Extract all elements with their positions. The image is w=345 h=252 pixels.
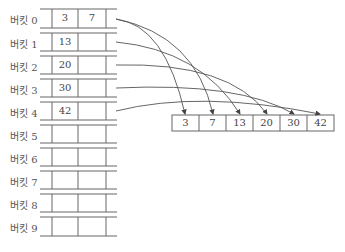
result-cell: 7: [199, 117, 226, 128]
bucket-cell: 3: [52, 12, 78, 23]
bucket-label: 버킷 7: [10, 174, 38, 189]
mapping-arrows: [116, 19, 320, 114]
bucket-label: 버킷 9: [10, 220, 38, 235]
bucket-label: 버킷 2: [10, 59, 38, 74]
result-cell: 3: [172, 117, 199, 128]
bucket-cell: 13: [52, 36, 78, 47]
bucket-label: 버킷 1: [10, 36, 38, 51]
bucket-label: 버킷 5: [10, 128, 38, 143]
bucket-label: 버킷 0: [10, 12, 38, 27]
result-cell: 13: [226, 117, 253, 128]
bucket-sort-diagram: 버킷 0 버킷 1 버킷 2 버킷 3 버킷 4 버킷 5 버킷 6 버킷 7 …: [0, 0, 345, 252]
bucket-label: 버킷 4: [10, 105, 38, 120]
result-cell: 20: [253, 117, 280, 128]
bucket-label: 버킷 6: [10, 151, 38, 166]
result-cell: 30: [280, 117, 307, 128]
bucket-label: 버킷 8: [10, 197, 38, 212]
bucket-label: 버킷 3: [10, 82, 38, 97]
bucket-cell: 30: [52, 82, 78, 93]
bucket-cell: 42: [52, 105, 78, 116]
bucket-cell: 20: [52, 59, 78, 70]
result-cell: 42: [307, 117, 334, 128]
bucket-cell: 7: [79, 12, 105, 23]
